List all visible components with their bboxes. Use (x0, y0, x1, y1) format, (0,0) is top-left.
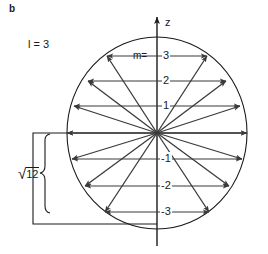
m-tick-label-1: 1 (162, 99, 170, 111)
vector-mneg3-right (157, 133, 209, 212)
m-tick-label-neg1: -1 (160, 152, 172, 164)
vector-m3-left (107, 56, 157, 133)
m-quantum-prefix-label: m= (133, 50, 147, 61)
m-tick-label-neg3: -3 (160, 205, 172, 217)
vector-m3-right (157, 56, 207, 133)
vector-mneg1-left (72, 133, 157, 159)
radicand-value: 12 (26, 167, 39, 180)
vector-m2-left (88, 81, 157, 133)
z-axis-label: z (165, 16, 171, 28)
m-tick-label-2: 2 (162, 74, 170, 86)
vector-mneg3-left (105, 133, 157, 212)
bracket-inner-brace (40, 134, 50, 213)
vector-m1-left (74, 106, 157, 133)
m-tick-label-neg2: -2 (160, 179, 172, 191)
panel-label: b (9, 3, 15, 15)
sqrt-icon: √ (18, 168, 26, 180)
m-tick-label-3: 3 (162, 49, 170, 61)
orbital-quantum-number-label: l = 3 (28, 38, 49, 50)
angular-momentum-vector-diagram: b l = 3 z m= 3 2 1 -1 -2 -3 √12 (0, 0, 268, 254)
magnitude-label: √12 (18, 168, 39, 180)
